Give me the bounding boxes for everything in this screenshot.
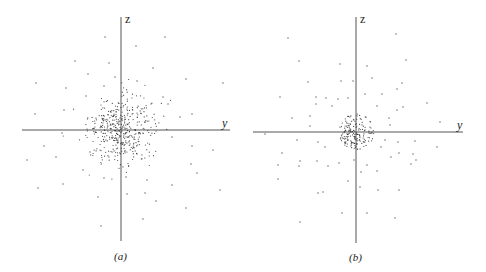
caption-b: (b) <box>349 252 362 263</box>
scatter-plot-b <box>0 0 486 272</box>
y-axis-label-b: y <box>457 119 462 131</box>
z-axis-label-b: z <box>360 13 365 25</box>
panel-b: z y (b) <box>0 0 486 272</box>
data-points <box>264 33 440 222</box>
